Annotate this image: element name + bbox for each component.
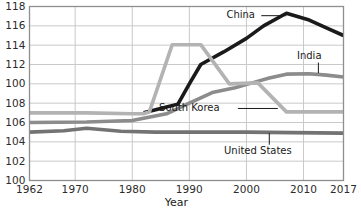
x-tick-label: 1962 <box>6 184 54 195</box>
series-line-china <box>144 13 344 113</box>
series-label-south-korea: South Korea <box>159 102 220 113</box>
y-tick-label: 114 <box>5 40 25 51</box>
y-tick-label: 106 <box>5 117 25 128</box>
x-tick-label: 1980 <box>108 184 156 195</box>
x-tick-label: 1990 <box>165 184 213 195</box>
series-label-china: China <box>226 9 255 20</box>
series-label-united-states: United States <box>224 145 292 156</box>
x-tick-label: 2000 <box>222 184 270 195</box>
x-axis-title: Year <box>0 196 353 209</box>
y-tick-label: 116 <box>5 20 25 31</box>
x-tick-label: 1970 <box>51 184 99 195</box>
series-line-india <box>30 74 344 123</box>
y-tick-label: 108 <box>5 98 25 109</box>
y-tick-label: 118 <box>5 1 25 12</box>
y-tick-label: 112 <box>5 59 25 70</box>
y-tick-label: 102 <box>5 156 25 167</box>
plot-border <box>30 7 344 181</box>
series-line-united-states <box>30 128 344 133</box>
y-tick-label: 104 <box>5 136 25 147</box>
x-tick-label: 2017 <box>320 184 361 195</box>
series-label-india: India <box>297 50 322 61</box>
y-tick-label: 100 <box>5 78 25 89</box>
